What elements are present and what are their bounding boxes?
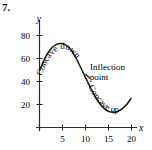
plot-svg: y x 80 60 40 20 5 10 15 20 Concave down … xyxy=(0,0,152,150)
y-axis-label: y xyxy=(36,13,42,24)
inflection-label-line1: Inflection xyxy=(90,62,125,72)
figure-container: 7. y x 80 60 40 20 xyxy=(0,0,152,150)
y-tick-label-40: 40 xyxy=(21,77,31,87)
x-tick-label-15: 15 xyxy=(104,134,114,144)
x-tick-label-20: 20 xyxy=(127,134,137,144)
concave-up-label: Concave up xyxy=(86,83,119,115)
y-tick-label-80: 80 xyxy=(21,31,31,41)
y-tick-label-60: 60 xyxy=(21,54,31,64)
y-tick-label-20: 20 xyxy=(21,100,31,110)
inflection-label-line2: point xyxy=(90,72,109,82)
x-tick-label-5: 5 xyxy=(60,134,65,144)
x-axis-label: x xyxy=(138,122,144,133)
x-tick-label-10: 10 xyxy=(81,134,91,144)
